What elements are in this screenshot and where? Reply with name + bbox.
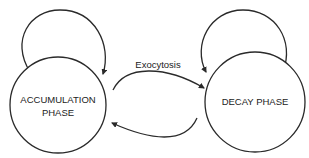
- decay-label: DECAY PHASE: [222, 96, 289, 107]
- exocytosis-label: Exocytosis: [135, 59, 181, 70]
- exocytosis-arrow: [113, 71, 204, 90]
- return-arrow: [112, 118, 197, 137]
- accumulation-label-line1: ACCUMULATION: [20, 94, 95, 105]
- accumulation-label-line2: PHASE: [42, 107, 74, 118]
- state-accumulation-phase: [10, 57, 106, 153]
- state-diagram: ACCUMULATION PHASE DECAY PHASE Exocytosi…: [0, 0, 309, 158]
